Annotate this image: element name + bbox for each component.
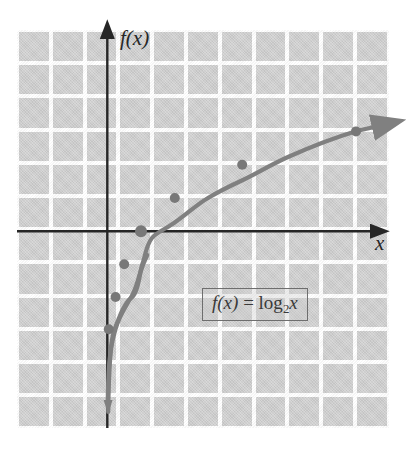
point-marker [104, 324, 114, 334]
point-marker [351, 126, 361, 136]
point-marker [237, 160, 247, 170]
equation-lhs: f(x) [212, 292, 238, 313]
curve-down-arrowhead [104, 400, 113, 414]
point-marker [119, 259, 129, 269]
equation-function-name: log [259, 292, 283, 313]
equation-relation: = [243, 292, 254, 313]
x-axis-label: x [375, 231, 384, 256]
point-marker [170, 193, 180, 203]
plot-canvas [0, 0, 406, 450]
log-function-figure: f(x) x f(x) = log2x [0, 0, 406, 450]
equation-label-box: f(x) = log2x [202, 288, 308, 321]
equation-argument: x [289, 292, 297, 313]
y-axis-label: f(x) [120, 26, 149, 51]
point-marker [111, 292, 121, 302]
point-marker [135, 225, 147, 237]
